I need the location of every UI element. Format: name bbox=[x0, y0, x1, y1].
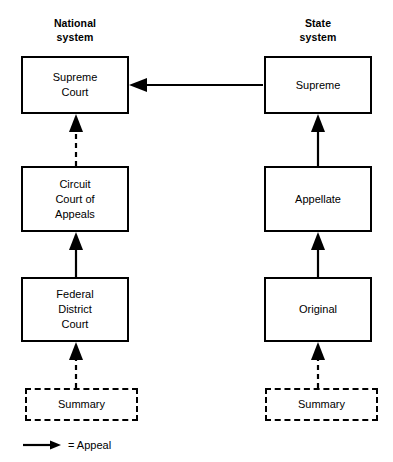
court-systems-diagram: National system State system bbox=[0, 0, 393, 462]
edge-circuit-to-supreme-court bbox=[69, 114, 83, 166]
column-heading-state: State system bbox=[264, 16, 372, 44]
node-federal-district-court[interactable]: Federal District Court bbox=[21, 277, 129, 342]
arrow-right-icon bbox=[22, 439, 62, 451]
node-supreme-court[interactable]: Supreme Court bbox=[21, 56, 129, 114]
edge-summary-to-original bbox=[311, 342, 325, 388]
node-circuit-court-of-appeals[interactable]: Circuit Court of Appeals bbox=[21, 166, 129, 232]
node-summary-national[interactable]: Summary bbox=[25, 388, 138, 421]
legend-label: = Appeal bbox=[68, 438, 111, 452]
edge-district-to-circuit bbox=[69, 232, 83, 277]
edge-appellate-to-supreme bbox=[311, 114, 325, 166]
legend: = Appeal bbox=[22, 436, 111, 454]
node-original[interactable]: Original bbox=[264, 277, 372, 342]
edge-state-supreme-to-national-supreme bbox=[129, 78, 263, 92]
node-summary-state[interactable]: Summary bbox=[265, 388, 378, 421]
node-supreme[interactable]: Supreme bbox=[264, 56, 372, 114]
node-appellate[interactable]: Appellate bbox=[264, 166, 372, 232]
edge-summary-to-district bbox=[69, 342, 83, 388]
edge-original-to-appellate bbox=[311, 232, 325, 277]
column-heading-national: National system bbox=[21, 16, 129, 44]
